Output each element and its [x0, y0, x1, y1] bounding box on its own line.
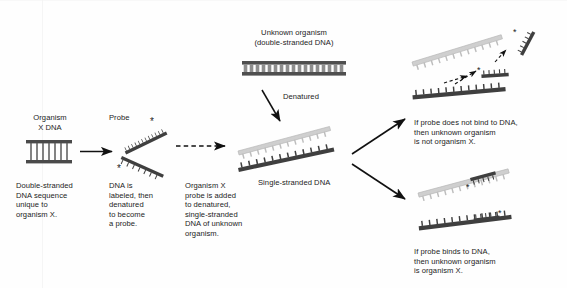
organism-x-double-strand [26, 140, 72, 163]
probe-lower-strand [119, 156, 164, 182]
negative-lower-strand [412, 82, 506, 99]
organism-x-dna-label: Organism X DNA [20, 113, 80, 132]
arrow-probe-rebound-1 [455, 71, 476, 84]
caption-probe: DNA is labeled, then denatured to become… [109, 181, 179, 229]
unknown-organism-double-strand [242, 61, 346, 76]
negative-free-probe-1 [481, 69, 509, 78]
arrow-probe-rebound-2 [444, 76, 467, 83]
arrow-probe-rebound-3 [495, 50, 506, 62]
caption-organism-x: Double-stranded DNA sequence unique to o… [16, 181, 106, 219]
arrow-to-negative-result [352, 119, 405, 154]
negative-upper-strand [412, 35, 504, 71]
arrow-denatured [262, 90, 280, 121]
negative-free-probe-1-star: * [477, 65, 481, 75]
unknown-organism-label: Unknown organism (double-stranded DNA) [218, 28, 370, 47]
denatured-label: Denatured [283, 92, 353, 102]
single-stranded-dna-label: Single-stranded DNA [258, 178, 378, 188]
positive-bound-probe-1-star: * [466, 182, 470, 192]
negative-free-probe-2-star: * [513, 27, 517, 37]
probe-upper-strand [123, 128, 167, 154]
result-positive-label: If probe binds to DNA, then unknown orga… [414, 247, 564, 276]
positive-bound-probe-1 [470, 171, 497, 185]
result-negative-label: If probe does not bind to DNA, then unkn… [414, 118, 564, 147]
diagram-canvas: * * [0, 0, 567, 288]
negative-free-probe-2 [517, 29, 536, 55]
positive-bound-probe-2-star: * [498, 208, 502, 218]
probe-lower-star: * [117, 163, 121, 174]
caption-mixing: Organism X probe is added to denatured, … [185, 181, 263, 239]
positive-upper-strand [418, 169, 510, 202]
probe-label: Probe [109, 113, 159, 123]
